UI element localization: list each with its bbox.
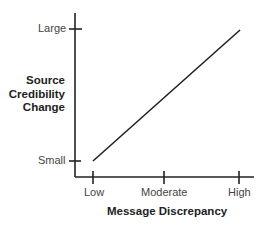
y-axis-title: Source Credibility Change [9,74,65,115]
y-tick-label-small: Small [38,154,66,166]
y-axis-title-line: Source [9,74,65,88]
x-tick-label-moderate: Moderate [141,186,187,198]
y-axis-title-line: Credibility [9,88,65,102]
y-tick-label-large: Large [38,22,66,34]
x-axis-title: Message Discrepancy [107,205,227,217]
x-tick-label-high: High [228,186,251,198]
data-line [93,30,240,161]
x-tick-label-low: Low [84,186,104,198]
y-axis-title-line: Change [9,101,65,115]
chart-plot [0,0,267,231]
